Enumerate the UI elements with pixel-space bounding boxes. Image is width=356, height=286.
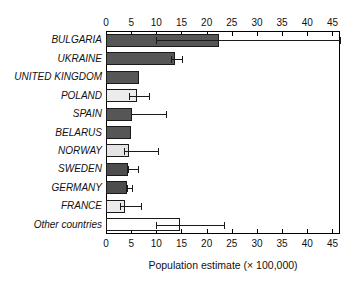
bar-ukraine bbox=[106, 52, 175, 65]
error-cap-low bbox=[127, 185, 128, 192]
bars-layer bbox=[106, 31, 340, 234]
category-label-ukraine: UKRAINE bbox=[0, 53, 106, 64]
error-bar-france bbox=[120, 206, 141, 207]
error-cap-low bbox=[171, 56, 172, 63]
error-cap-high bbox=[132, 185, 133, 192]
category-label-poland: POLAND bbox=[0, 90, 106, 101]
bar-united-kingdom bbox=[106, 71, 139, 84]
bar-spain bbox=[106, 108, 132, 121]
bar-sweden bbox=[106, 163, 128, 176]
error-cap-low bbox=[156, 37, 157, 44]
category-label-other-countries: Other countries bbox=[0, 219, 106, 230]
x-tick-label: 45 bbox=[317, 17, 347, 28]
category-label-spain: SPAIN bbox=[0, 108, 106, 119]
error-cap-high bbox=[224, 222, 225, 229]
error-cap-high bbox=[340, 37, 341, 44]
category-label-germany: GERMANY bbox=[0, 182, 106, 193]
x-tick-label: 45 bbox=[317, 238, 347, 249]
error-cap-high bbox=[141, 203, 142, 210]
error-cap-low bbox=[131, 111, 132, 118]
error-cap-low bbox=[156, 222, 157, 229]
error-cap-high bbox=[149, 93, 150, 100]
error-cap-high bbox=[182, 56, 183, 63]
error-cap-low bbox=[129, 93, 130, 100]
error-bar-bulgaria bbox=[156, 40, 340, 41]
category-label-sweden: SWEDEN bbox=[0, 163, 106, 174]
error-bar-norway bbox=[124, 151, 158, 152]
error-bar-other-countries bbox=[156, 225, 224, 226]
category-label-france: FRANCE bbox=[0, 200, 106, 211]
error-cap-high bbox=[158, 148, 159, 155]
x-axis-title: Population estimate (× 100,000) bbox=[106, 259, 340, 271]
error-cap-high bbox=[138, 166, 139, 173]
bar-germany bbox=[106, 181, 127, 194]
bar-belarus bbox=[106, 126, 131, 139]
error-cap-low bbox=[120, 203, 121, 210]
error-cap-high bbox=[166, 111, 167, 118]
category-label-norway: NORWAY bbox=[0, 145, 106, 156]
error-bar-poland bbox=[129, 96, 149, 97]
error-cap-low bbox=[124, 148, 125, 155]
x-axis-bottom: 051015202530354045 bbox=[106, 234, 340, 235]
category-label-united-kingdom: UNITED KINGDOM bbox=[0, 71, 106, 82]
error-bar-sweden bbox=[128, 169, 138, 170]
error-bar-ukraine bbox=[171, 59, 182, 60]
category-label-belarus: BELARUS bbox=[0, 127, 106, 138]
category-label-bulgaria: BULGARIA bbox=[0, 34, 106, 45]
error-cap-low bbox=[128, 166, 129, 173]
error-bar-spain bbox=[131, 114, 166, 115]
bar-chart: 051015202530354045 051015202530354045 BU… bbox=[0, 0, 356, 286]
